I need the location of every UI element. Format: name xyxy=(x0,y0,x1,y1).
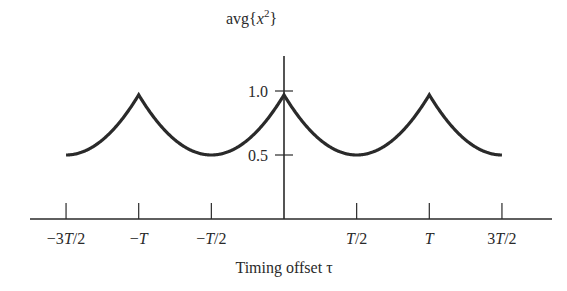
y-tick-label-1.0: 1.0 xyxy=(248,83,268,100)
y-tick-label-0.5: 0.5 xyxy=(248,147,268,164)
x-ticks: −3T/2−T−T/2T/2T3T/2 xyxy=(47,203,517,247)
x-tick-label: −T xyxy=(130,230,149,247)
x-tick-label: 3T/2 xyxy=(487,230,516,247)
y-axis-label: avg{x2} xyxy=(226,7,277,28)
x-axis-label: Timing offset τ xyxy=(235,259,333,277)
x-tick-label: −T/2 xyxy=(196,230,226,247)
x-tick-label: −3T/2 xyxy=(47,230,85,247)
x-tick-label: T/2 xyxy=(346,230,367,247)
timing-offset-chart: 1.0 0.5 −3T/2−T−T/2T/2T3T/2 avg{x2} Timi… xyxy=(0,0,567,291)
x-tick-label: T xyxy=(425,230,435,247)
